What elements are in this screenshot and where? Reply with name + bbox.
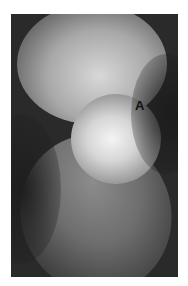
- annotation-label-a: A: [135, 98, 144, 113]
- xray-image: A: [11, 14, 178, 277]
